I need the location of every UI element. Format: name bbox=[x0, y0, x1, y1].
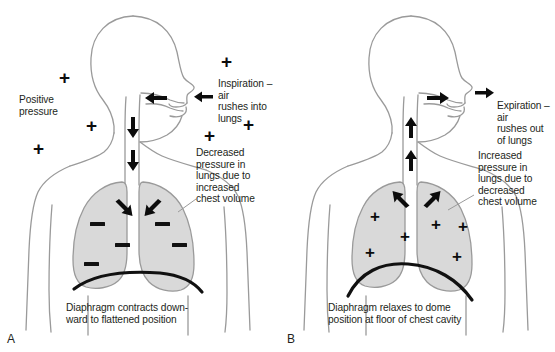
arrow-air-exiting-mouth bbox=[475, 87, 494, 98]
panel-inspiration: + + + + + + Positive pressure Inspiratio… bbox=[0, 0, 277, 352]
plus-sign-external: + bbox=[59, 68, 70, 87]
plus-sign-external: + bbox=[86, 116, 97, 135]
plus-sign-lung: + bbox=[400, 228, 410, 245]
nose-outline bbox=[447, 103, 465, 107]
positive-pressure-label: Positive pressure bbox=[19, 94, 58, 117]
expiration-airflow-label: Expiration – air rushes out of lungs bbox=[497, 100, 555, 146]
minus-sign-lung bbox=[90, 222, 105, 226]
arrow-trachea-down-upper bbox=[127, 117, 139, 138]
head-outline-front bbox=[133, 16, 194, 103]
minus-sign-lung bbox=[155, 222, 170, 226]
plus-sign-lung: + bbox=[370, 208, 380, 225]
arrow-trachea-up-upper bbox=[405, 117, 417, 138]
airway-wall-right bbox=[139, 95, 140, 185]
airway-wall-left bbox=[403, 97, 404, 185]
airway-wall-right bbox=[417, 95, 418, 185]
nose-outline bbox=[169, 103, 187, 107]
minus-sign-lung bbox=[115, 243, 130, 247]
plus-sign-external: + bbox=[204, 126, 215, 145]
jaw-outline bbox=[140, 116, 182, 142]
minus-sign-lung bbox=[172, 243, 187, 247]
head-outline-front bbox=[411, 16, 472, 103]
decreased-lung-pressure-label: Decreased pressure in lungs due to incre… bbox=[196, 147, 277, 205]
plus-sign-lung: + bbox=[365, 244, 375, 261]
left-arm-outline bbox=[26, 166, 70, 330]
inspiration-airflow-label: Inspiration – air rushes into lungs bbox=[218, 78, 277, 124]
arrow-trachea-down-lower bbox=[127, 150, 139, 171]
left-torso-outline bbox=[49, 205, 52, 332]
right-torso-outline bbox=[502, 207, 505, 332]
plus-sign-lung: + bbox=[452, 248, 462, 265]
arrow-trachea-up-lower bbox=[405, 150, 417, 171]
arrow-air-entering-mouth bbox=[194, 91, 213, 102]
diaphragm-relaxes-label: Diaphragm relaxes to dome position at fl… bbox=[328, 302, 461, 325]
neck-back-outline bbox=[348, 133, 392, 166]
increased-lung-pressure-label: Increased pressure in lungs due to decre… bbox=[478, 150, 537, 208]
panel-expiration: + + + + + + Expiration – air rushes out … bbox=[278, 0, 555, 352]
head-outline-back bbox=[91, 16, 133, 133]
neck-back-outline bbox=[70, 133, 114, 166]
panel-letter-a: A bbox=[7, 332, 15, 346]
right-torso-outline bbox=[224, 207, 227, 332]
plus-sign-lung: + bbox=[458, 218, 468, 235]
minus-sign-lung bbox=[84, 262, 99, 266]
plus-sign-external: + bbox=[221, 52, 232, 71]
panel-letter-b: B bbox=[287, 332, 295, 346]
airway-wall-left bbox=[125, 97, 126, 185]
neck-front-outline bbox=[418, 142, 484, 170]
head-outline-back bbox=[369, 16, 411, 133]
lungs-shape bbox=[352, 182, 472, 291]
jaw-outline bbox=[418, 116, 460, 142]
plus-sign-external: + bbox=[33, 139, 44, 158]
plus-sign-lung: + bbox=[431, 216, 441, 233]
diaphragm-contracts-label: Diaphragm contracts down- ward to flatte… bbox=[66, 302, 188, 325]
